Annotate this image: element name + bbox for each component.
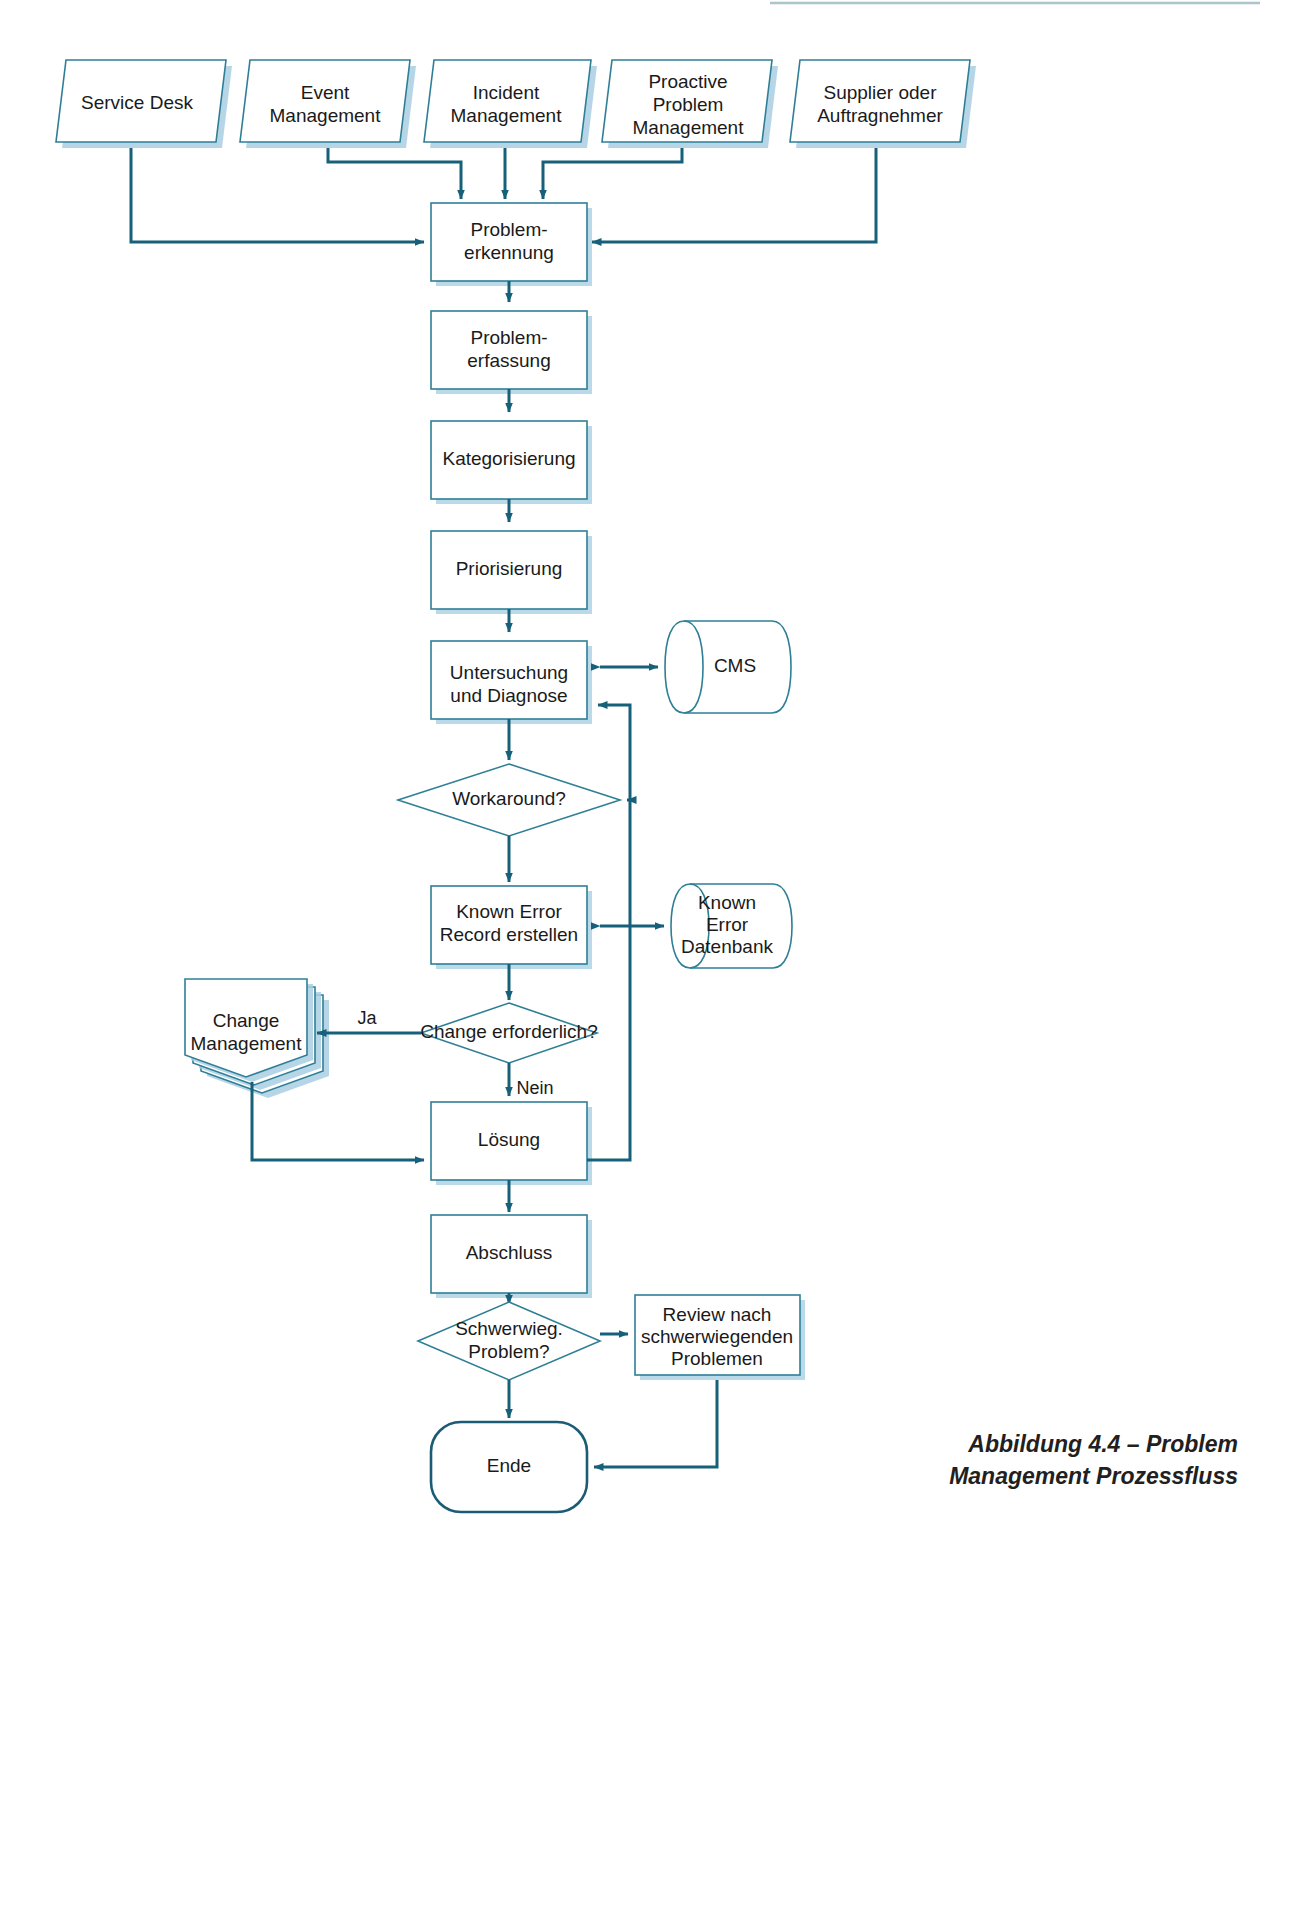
decision-node-schwerwiegendes-problem[interactable]: Schwerwieg. Problem? <box>418 1302 600 1380</box>
review-label-line2: schwerwiegenden <box>641 1326 793 1347</box>
external-process-label-change-management-line1: Change <box>213 1010 280 1031</box>
process-label-untersuchung-line2: und Diagnose <box>450 685 567 706</box>
process-node-kategorisierung[interactable]: Kategorisierung <box>431 421 592 504</box>
decision-label-schwerwieg-line2: Problem? <box>468 1341 549 1362</box>
process-node-untersuchung-und-diagnose[interactable]: Untersuchung und Diagnose <box>431 641 592 724</box>
process-label-loesung: Lösung <box>478 1129 540 1150</box>
source-node-incident-management[interactable]: Incident Management <box>424 60 597 148</box>
process-node-loesung[interactable]: Lösung <box>431 1102 592 1185</box>
review-label-line3: Problemen <box>671 1348 763 1369</box>
process-node-review-nach-schwerwiegenden-problemen[interactable]: Review nach schwerwiegenden Problemen <box>635 1295 805 1380</box>
decision-node-workaround[interactable]: Workaround? <box>398 764 620 836</box>
source-node-event-management[interactable]: Event Management <box>240 60 416 148</box>
review-label-line1: Review nach <box>663 1304 772 1325</box>
flowchart-diagram: Service Desk Event Management Incident M… <box>0 0 1297 1929</box>
figure-caption-line1: Abbildung 4.4 – Problem <box>967 1431 1238 1457</box>
source-label-event-management-line2: Management <box>270 105 382 126</box>
datastore-node-cms[interactable]: CMS <box>665 621 791 713</box>
datastore-label-ked-line3: Datenbank <box>681 936 773 957</box>
connector-loesung-to-untersuchung-feedback <box>587 705 630 1160</box>
process-label-problemerkennung-line2: erkennung <box>464 242 554 263</box>
source-label-incident-management-line1: Incident <box>473 82 540 103</box>
datastore-label-ked-line1: Known <box>698 892 756 913</box>
connector-event-management-to-problemerkennung <box>328 148 461 199</box>
external-process-label-change-management-line2: Management <box>191 1033 303 1054</box>
source-label-proactive-line3: Management <box>633 117 745 138</box>
process-label-problemerkennung-line1: Problem- <box>470 219 547 240</box>
terminator-node-ende[interactable]: Ende <box>431 1422 587 1512</box>
decision-label-workaround: Workaround? <box>452 788 566 809</box>
connector-review-to-ende <box>594 1380 717 1467</box>
datastore-label-cms: CMS <box>714 655 756 676</box>
process-label-problemerfassung-line2: erfassung <box>467 350 550 371</box>
decision-node-change-erforderlich[interactable]: Change erforderlich? <box>420 1003 597 1063</box>
source-node-service-desk[interactable]: Service Desk <box>56 60 232 148</box>
decision-label-schwerwieg-line1: Schwerwieg. <box>455 1318 563 1339</box>
process-node-priorisierung[interactable]: Priorisierung <box>431 531 592 614</box>
source-label-proactive-line2: Problem <box>653 94 724 115</box>
process-node-problemerfassung[interactable]: Problem- erfassung <box>431 311 592 394</box>
figure-caption-line2: Management Prozessfluss <box>949 1463 1238 1489</box>
process-label-untersuchung-line1: Untersuchung <box>450 662 568 683</box>
process-label-kategorisierung: Kategorisierung <box>442 448 575 469</box>
process-node-abschluss[interactable]: Abschluss <box>431 1215 592 1298</box>
source-node-proactive-problem-management[interactable]: Proactive Problem Management <box>602 60 778 148</box>
edge-label-nein: Nein <box>516 1078 553 1098</box>
source-label-event-management-line1: Event <box>301 82 350 103</box>
process-label-priorisierung: Priorisierung <box>456 558 563 579</box>
datastore-node-known-error-datenbank[interactable]: Known Error Datenbank <box>671 884 792 968</box>
source-label-supplier-line1: Supplier oder <box>823 82 937 103</box>
terminator-label-ende: Ende <box>487 1455 531 1476</box>
source-label-incident-management-line2: Management <box>451 105 563 126</box>
datastore-label-ked-line2: Error <box>706 914 749 935</box>
process-label-problemerfassung-line1: Problem- <box>470 327 547 348</box>
source-node-supplier-oder-auftragnehmer[interactable]: Supplier oder Auftragnehmer <box>790 60 976 148</box>
process-label-known-error-record-line2: Record erstellen <box>440 924 578 945</box>
external-process-node-change-management[interactable]: Change Management <box>185 979 329 1098</box>
decision-label-change-erforderlich: Change erforderlich? <box>420 1021 597 1042</box>
connector-proactive-to-problemerkennung <box>543 148 682 199</box>
flowchart-canvas: Service Desk Event Management Incident M… <box>0 0 1297 1929</box>
edge-label-ja: Ja <box>357 1008 377 1028</box>
source-label-supplier-line2: Auftragnehmer <box>817 105 943 126</box>
process-label-abschluss: Abschluss <box>466 1242 553 1263</box>
process-label-known-error-record-line1: Known Error <box>456 901 562 922</box>
source-label-proactive-line1: Proactive <box>648 71 727 92</box>
source-label-service-desk: Service Desk <box>81 92 193 113</box>
process-node-known-error-record-erstellen[interactable]: Known Error Record erstellen <box>431 886 592 969</box>
process-node-problemerkennung[interactable]: Problem- erkennung <box>431 203 592 286</box>
